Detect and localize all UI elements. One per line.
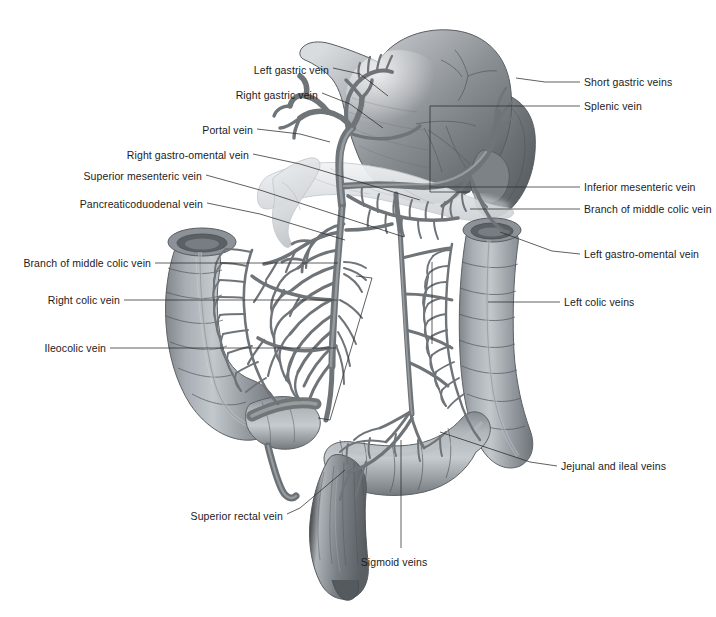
label-portal-vein: Portal vein [202,124,253,136]
label-left-colic-veins: Left colic veins [564,296,634,308]
label-right-gastro-omental-vein: Right gastro-omental vein [127,149,249,161]
label-branch-of-middle-colic-vein: Branch of middle colic vein [584,203,712,215]
label-short-gastric-veins: Short gastric veins [584,76,672,88]
vasa-recta-left [337,262,366,384]
label-inferior-mesenteric-vein: Inferior mesenteric vein [584,181,696,193]
label-pancreaticoduodenal-vein: Pancreaticoduodenal vein [80,198,203,210]
label-branch-of-middle-colic-vein: Branch of middle colic vein [23,257,151,269]
label-superior-rectal-vein: Superior rectal vein [191,510,283,522]
label-ileocolic-vein: Ileocolic vein [44,342,106,354]
label-sigmoid-veins: Sigmoid veins [361,556,428,568]
label-right-gastric-vein: Right gastric vein [236,89,318,101]
colon-cut-end [168,228,236,256]
label-jejunal-and-ileal-veins: Jejunal and ileal veins [561,460,666,472]
label-right-colic-vein: Right colic vein [48,294,120,306]
appendix [268,446,296,498]
ileocolic-vein [258,338,336,351]
leader-line [516,78,580,82]
label-left-gastro-omental-vein: Left gastro-omental vein [584,248,699,260]
anatomical-figure: Left gastric veinRight gastric veinPorta… [0,0,716,617]
rectum [309,454,368,600]
label-left-gastric-vein: Left gastric vein [254,64,329,76]
illustration-canvas [0,0,716,617]
label-splenic-vein: Splenic vein [584,100,642,112]
label-superior-mesenteric-vein: Superior mesenteric vein [83,170,202,182]
superior-mesenteric-vein-lower [326,366,332,420]
